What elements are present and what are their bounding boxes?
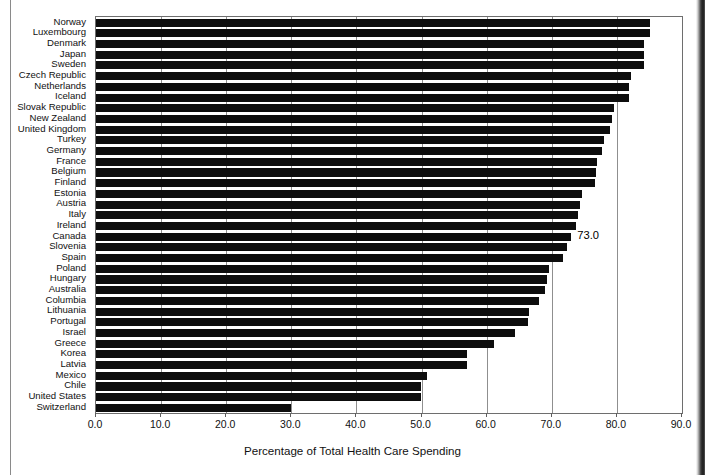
bar-row [96, 306, 682, 317]
y-axis-label: Greece [55, 337, 86, 348]
bar [96, 136, 604, 144]
bar [96, 233, 571, 241]
x-tick-mark [160, 413, 161, 417]
y-axis-label: Netherlands [34, 80, 86, 91]
bar [96, 297, 539, 305]
bar [96, 201, 580, 209]
bar-row [96, 49, 682, 60]
y-axis-label: Japan [60, 48, 86, 59]
bar [96, 286, 545, 294]
bar [96, 126, 610, 134]
bar-row [96, 295, 682, 306]
scan-shadow-band [696, 0, 705, 475]
x-tick-mark [421, 413, 422, 417]
y-axis-label: Slovak Republic [17, 101, 86, 112]
x-tick-label: 20.0 [215, 418, 235, 430]
x-tick-label: 30.0 [280, 418, 300, 430]
bar-row [96, 210, 682, 221]
y-axis-label: Portugal [50, 315, 86, 326]
x-tick-label: 40.0 [345, 418, 365, 430]
y-axis-label: Columbia [45, 294, 86, 305]
bar [96, 147, 602, 155]
bar-row [96, 338, 682, 349]
y-axis-label: Denmark [47, 37, 86, 48]
bar-row [96, 92, 682, 103]
y-axis-label: Italy [68, 208, 86, 219]
bar-row [96, 103, 682, 114]
bar-row [96, 285, 682, 296]
x-axis-title: Percentage of Total Health Care Spending [0, 444, 705, 457]
bar-row [96, 327, 682, 338]
bar-row [96, 145, 682, 156]
bar [96, 382, 421, 390]
y-axis-label: Korea [60, 347, 86, 358]
bar [96, 243, 567, 251]
x-tick-label: 80.0 [606, 418, 626, 430]
bar-row [96, 392, 682, 403]
bar [96, 393, 421, 401]
bar-row [96, 402, 682, 413]
bar-row [96, 167, 682, 178]
y-axis-label: Hungary [50, 272, 86, 283]
bar [96, 158, 597, 166]
y-axis-label: Latvia [60, 358, 86, 369]
data-value-label: 73.0 [577, 229, 599, 241]
bar [96, 115, 612, 123]
bar [96, 40, 644, 48]
bar-row [96, 156, 682, 167]
x-tick-label: 90.0 [671, 418, 691, 430]
bar [96, 361, 467, 369]
y-axis-label: France [56, 155, 86, 166]
bar [96, 329, 515, 337]
bar [96, 318, 528, 326]
x-tick-label: 10.0 [150, 418, 170, 430]
plot-area: 73.0 [95, 16, 683, 414]
x-axis-ticks: 0.010.020.030.040.050.060.070.080.090.0 [0, 413, 705, 431]
bar [96, 61, 644, 69]
bar [96, 51, 644, 59]
x-tick-mark [681, 413, 682, 417]
bar [96, 222, 576, 230]
bar-row [96, 242, 682, 253]
x-tick-mark [95, 413, 96, 417]
bar [96, 404, 291, 412]
bar [96, 104, 614, 112]
x-tick-label: 70.0 [541, 418, 561, 430]
y-axis-label: Belgium [51, 165, 86, 176]
chart-figure: 73.0 NorwayLuxembourgDenmarkJapanSwedenC… [0, 0, 705, 475]
y-axis-label: Luxembourg [33, 26, 86, 37]
y-axis-label: Ireland [57, 219, 86, 230]
bar-row [96, 124, 682, 135]
y-axis-label: Iceland [55, 90, 86, 101]
bar-row [96, 370, 682, 381]
y-axis-label: Spain [61, 251, 86, 262]
y-axis-label: Austria [56, 197, 86, 208]
x-tick-mark [225, 413, 226, 417]
bar [96, 211, 578, 219]
y-axis-label: Sweden [51, 58, 86, 69]
bar-row [96, 60, 682, 71]
bar-row [96, 17, 682, 28]
y-axis-label: Canada [52, 230, 86, 241]
bar [96, 275, 547, 283]
bar [96, 340, 494, 348]
y-axis-label: Germany [47, 144, 86, 155]
bar-row [96, 178, 682, 189]
y-axis-label: Finland [55, 176, 86, 187]
bar-series [96, 17, 682, 413]
bar [96, 29, 650, 37]
y-axis-label: Switzerland [36, 401, 86, 412]
x-tick-mark [551, 413, 552, 417]
y-axis-category-labels: NorwayLuxembourgDenmarkJapanSwedenCzech … [0, 16, 90, 412]
y-axis-label: Poland [56, 262, 86, 273]
bar-row [96, 349, 682, 360]
x-tick-label: 60.0 [475, 418, 495, 430]
y-axis-label: Slovenia [49, 240, 86, 251]
bar-row [96, 381, 682, 392]
x-tick-mark [290, 413, 291, 417]
y-axis-label: Australia [49, 283, 86, 294]
bar-row [96, 263, 682, 274]
bar-row [96, 71, 682, 82]
bar [96, 19, 650, 27]
bar-row [96, 38, 682, 49]
